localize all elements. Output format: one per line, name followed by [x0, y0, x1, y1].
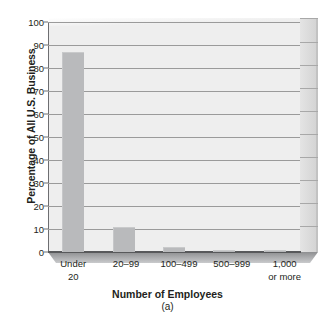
bar	[213, 250, 235, 252]
gridline-side	[300, 88, 318, 89]
x-tick-label-line1: 1,000	[273, 258, 297, 269]
figure-caption: (a)	[0, 301, 335, 312]
y-tick-label: 90	[14, 40, 48, 51]
x-tick-label-line1: 500–999	[213, 258, 250, 269]
x-tick-label-line1: 20–99	[113, 258, 139, 269]
gridline-side	[300, 203, 318, 204]
y-tick-label: 100	[14, 17, 48, 28]
y-tick-label: 70	[14, 86, 48, 97]
bar	[113, 227, 135, 252]
x-axis-title: Number of Employees	[0, 288, 335, 300]
y-tick-label: 40	[14, 155, 48, 166]
plot-side-panel-3d	[300, 18, 318, 252]
bar	[163, 247, 185, 252]
gridline-side	[300, 65, 318, 66]
y-tick-label: 50	[14, 132, 48, 143]
x-tick-label-line1: 100–499	[160, 258, 197, 269]
gridline-side	[300, 18, 318, 19]
x-axis-tick-labels: Under2020–99100–499500–9991,000or more	[48, 258, 318, 290]
x-tick-label-line1: Under	[60, 258, 86, 269]
gridline-side	[300, 42, 318, 43]
x-tick-label: 20–99	[113, 258, 139, 271]
bar	[264, 250, 286, 252]
gridline-side	[300, 134, 318, 135]
y-tick-label: 30	[14, 178, 48, 189]
y-tick-label: 0	[14, 247, 48, 258]
x-tick-label: 500–999	[213, 258, 250, 271]
bar	[62, 52, 84, 252]
x-tick-label: 100–499	[160, 258, 197, 271]
y-tick-label: 20	[14, 201, 48, 212]
gridline-side	[300, 180, 318, 181]
plot-region: 0102030405060708090100	[48, 18, 318, 254]
gridline-side	[300, 111, 318, 112]
y-tick-label: 60	[14, 109, 48, 120]
x-tick-label-line2: or more	[268, 271, 301, 284]
x-tick-label: Under20	[60, 258, 86, 283]
x-tick-label-line2: 20	[60, 271, 86, 284]
gridline-side	[300, 226, 318, 227]
gridline-side	[300, 157, 318, 158]
x-tick-label: 1,000or more	[268, 258, 301, 283]
bar-chart-figure: Percentage of All U.S. Business 01020304…	[0, 0, 335, 322]
bars-layer	[48, 22, 300, 252]
y-tick-label: 80	[14, 63, 48, 74]
y-tick-label: 10	[14, 224, 48, 235]
